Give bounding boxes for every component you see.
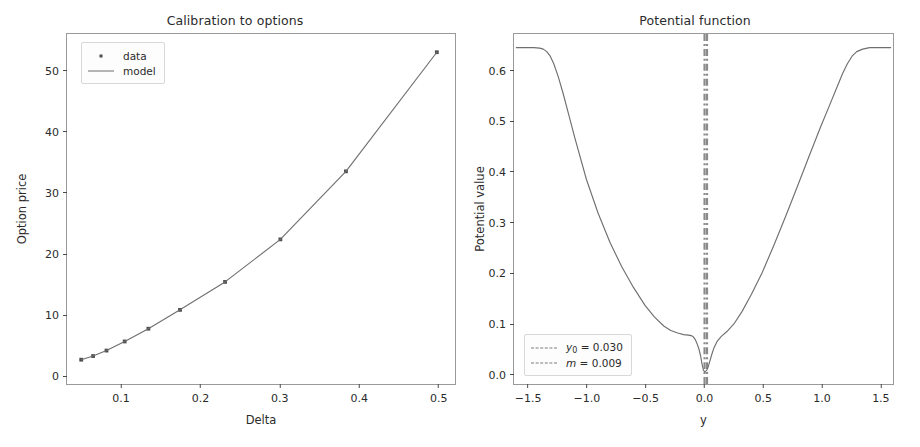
left-legend-row: model <box>88 63 156 78</box>
series-line-model <box>81 52 437 359</box>
legend-dashdot-icon <box>531 343 557 353</box>
right-y-tick: 0.0 <box>489 368 515 381</box>
left-x-axis-label: Delta <box>66 413 456 427</box>
figure-root: Calibration to options Option price 0102… <box>0 0 920 447</box>
left-plot-area: 01020304050 0.10.20.30.40.5 datamodel <box>66 33 456 385</box>
left-legend-label: model <box>123 65 156 77</box>
right-chart-title: Potential function <box>470 13 920 28</box>
right-x-tick: −1.5 <box>515 384 542 405</box>
legend-marker-icon <box>88 51 114 61</box>
right-x-tick: −1.0 <box>574 384 601 405</box>
left-chart-title: Calibration to options <box>0 13 470 28</box>
left-y-tick: 20 <box>45 248 67 261</box>
right-legend-label: m = 0.009 <box>566 357 622 369</box>
right-y-tick: 0.4 <box>489 165 515 178</box>
left-x-tick: 0.3 <box>271 384 289 405</box>
left-x-tick: 0.4 <box>351 384 369 405</box>
legend-line-icon <box>88 66 114 76</box>
left-y-tick: 40 <box>45 125 67 138</box>
left-chart-canvas <box>67 34 455 384</box>
right-legend-row: y0 = 0.030 <box>531 340 623 355</box>
panel-calibration-to-options: Calibration to options Option price 0102… <box>0 0 470 447</box>
left-x-tick: 0.5 <box>430 384 448 405</box>
right-x-tick: 0.0 <box>696 384 714 405</box>
left-x-tick: 0.2 <box>192 384 210 405</box>
right-plot-area: 0.00.10.20.30.40.50.6 −1.5−1.0−0.50.00.5… <box>513 33 894 385</box>
left-legend-row: data <box>88 48 156 63</box>
right-x-tick: 1.0 <box>813 384 831 405</box>
left-y-axis-label: Option price <box>15 174 29 245</box>
right-x-tick: 1.5 <box>872 384 890 405</box>
right-legend-label: y0 = 0.030 <box>566 341 623 355</box>
left-y-tick: 30 <box>45 186 67 199</box>
right-x-tick: 0.5 <box>755 384 773 405</box>
right-y-tick: 0.5 <box>489 115 515 128</box>
right-x-tick: −0.5 <box>632 384 659 405</box>
panel-potential-function: Potential function Potential value 0.00.… <box>470 0 920 447</box>
left-x-tick: 0.1 <box>112 384 130 405</box>
right-chart-canvas <box>514 34 893 384</box>
right-x-axis-label: y <box>513 413 894 427</box>
left-y-tick: 0 <box>52 370 67 383</box>
right-legend-row: m = 0.009 <box>531 355 623 370</box>
right-y-tick: 0.1 <box>489 318 515 331</box>
legend-dashdot-icon <box>531 358 557 368</box>
left-legend[interactable]: datamodel <box>81 42 165 84</box>
left-y-tick: 50 <box>45 64 67 77</box>
right-y-tick: 0.2 <box>489 267 515 280</box>
left-y-tick: 10 <box>45 309 67 322</box>
right-legend[interactable]: y0 = 0.030m = 0.009 <box>524 334 632 376</box>
right-y-tick: 0.6 <box>489 64 515 77</box>
left-legend-label: data <box>123 50 147 62</box>
right-y-tick: 0.3 <box>489 216 515 229</box>
right-y-axis-label: Potential value <box>473 166 487 251</box>
